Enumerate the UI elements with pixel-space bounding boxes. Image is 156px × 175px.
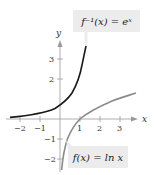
y-tick-label: −1 xyxy=(44,135,56,144)
y-axis-label: y xyxy=(55,28,62,38)
x-tick-label: 1 xyxy=(77,124,82,133)
exp-function-label: f⁻¹(x) = eˣ xyxy=(73,10,140,32)
x-tick-label: −2 xyxy=(14,124,26,133)
x-axis-label: x xyxy=(142,114,147,124)
x-tick-label: 3 xyxy=(117,124,122,133)
x-axis-arrow-icon xyxy=(131,117,138,122)
y-axis-arrow-icon xyxy=(58,40,63,47)
y-tick-label: −2 xyxy=(44,155,56,164)
y-tick-label: 2 xyxy=(49,75,54,84)
x-tick-label: −1 xyxy=(34,124,46,133)
y-tick-label: 3 xyxy=(49,55,54,64)
x-tick-label: 2 xyxy=(97,124,102,133)
ln-function-label: f(x) = ln x xyxy=(68,146,128,168)
exp-curve xyxy=(10,46,86,117)
